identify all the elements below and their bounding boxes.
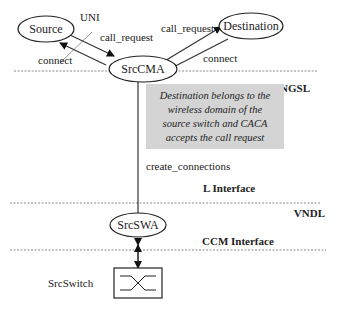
srccma-node: SrcCMA bbox=[109, 56, 177, 82]
call-request-label-destination: call_request bbox=[161, 22, 214, 34]
ngsl-layer-label: NGSL bbox=[280, 82, 310, 94]
condition-note: Destination belongs to the wireless doma… bbox=[146, 84, 284, 149]
note-line-4: accepts the call request bbox=[166, 132, 266, 143]
srcswa-node: SrcSWA bbox=[110, 213, 166, 237]
call-request-label-source: call_request bbox=[100, 31, 153, 43]
note-line-3: source switch and CACA bbox=[163, 118, 268, 129]
source-label: Source bbox=[29, 22, 62, 36]
vndl-layer-label: VNDL bbox=[294, 207, 325, 219]
srcswitch-box bbox=[114, 268, 162, 298]
ccm-interface-label: CCM Interface bbox=[202, 235, 274, 247]
diagram-canvas: Source Destination SrcCMA UNI call_reque… bbox=[0, 0, 339, 313]
srcswitch-label: SrcSwitch bbox=[48, 277, 94, 289]
create-connections-label: create_connections bbox=[146, 160, 230, 172]
note-line-2: wireless domain of the bbox=[168, 104, 263, 115]
destination-label: Destination bbox=[223, 19, 278, 33]
srcswa-label: SrcSWA bbox=[117, 218, 159, 232]
srccma-label: SrcCMA bbox=[121, 62, 165, 76]
connect-label-source: connect bbox=[38, 54, 72, 66]
l-interface-label: L Interface bbox=[203, 182, 255, 194]
uni-label: UNI bbox=[80, 11, 100, 23]
note-line-1: Destination belongs to the bbox=[159, 90, 271, 101]
connect-label-destination: connect bbox=[203, 52, 237, 64]
destination-node: Destination bbox=[219, 13, 283, 39]
source-node: Source bbox=[18, 16, 74, 42]
